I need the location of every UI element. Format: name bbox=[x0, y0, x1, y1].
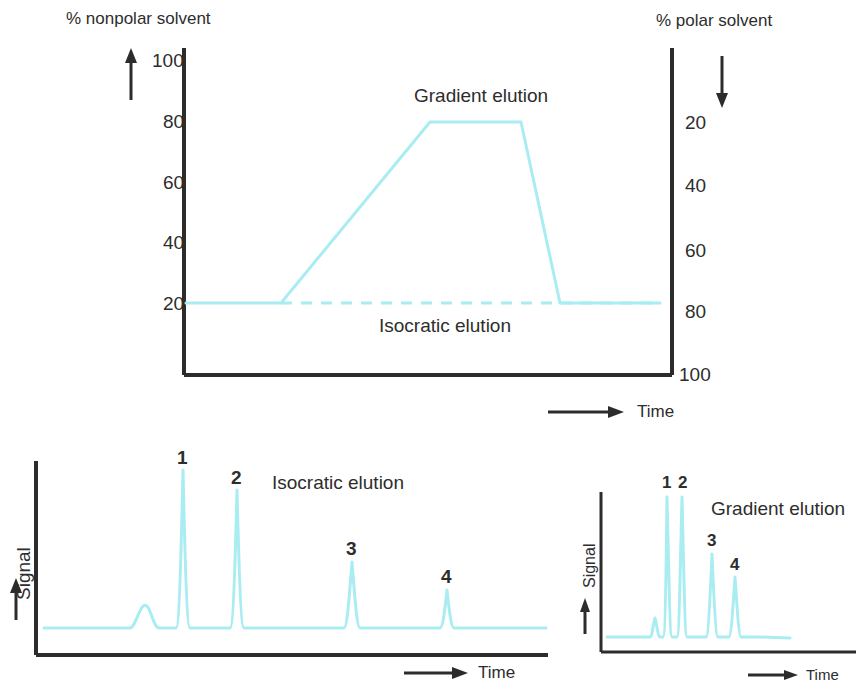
gradient-chromatogram-graphics bbox=[0, 0, 860, 684]
gradient-peak-label-3: 3 bbox=[707, 532, 716, 549]
gradient-peak-label-2: 2 bbox=[678, 474, 687, 491]
gradient-chromatogram-title: Gradient elution bbox=[711, 499, 845, 518]
hplc-elution-figure: % nonpolar solvent % polar solvent 100 8… bbox=[0, 0, 860, 684]
gradient-x-axis-label: Time bbox=[806, 667, 839, 682]
gradient-time-arrow-icon bbox=[748, 670, 798, 680]
gradient-y-axis-label: Signal bbox=[582, 544, 598, 588]
gradient-peak-label-4: 4 bbox=[730, 556, 739, 573]
gradient-signal-arrow-icon bbox=[580, 598, 590, 634]
gradient-peak-label-1: 1 bbox=[662, 474, 671, 491]
